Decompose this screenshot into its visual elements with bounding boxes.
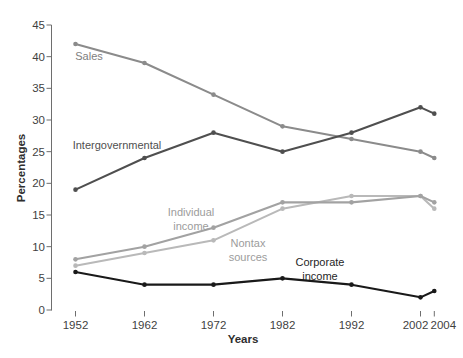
data-point-corporate-income-2004 [432,289,437,294]
y-tick-label-5: 5 [39,272,45,284]
y-tick-label-30: 30 [32,114,45,126]
line-chart-figure: 0510152025303540451952196219721982199220… [0,0,463,358]
data-point-nontax-sources-1962 [142,251,147,256]
data-point-intergovernmental-1962 [142,156,147,161]
series-label-individual-income: Individual [168,206,214,218]
data-point-intergovernmental-1992 [349,130,354,135]
data-point-individual-income-2004 [432,200,437,205]
data-point-intergovernmental-1982 [280,149,285,154]
x-tick-label-2002: 2002 [403,319,429,331]
series-line-corporate-income [76,272,435,297]
series-label-nontax-sources: sources [229,251,268,263]
data-point-corporate-income-1962 [142,282,147,287]
series-label-sales: Sales [75,50,103,62]
series-corporate-income [73,270,436,300]
data-point-corporate-income-1982 [280,276,285,281]
x-tick-label-1972: 1972 [201,319,227,331]
data-point-individual-income-1972 [211,225,216,230]
data-point-intergovernmental-1952 [73,187,78,192]
series-label-corporate-income: income [302,270,337,282]
data-point-individual-income-1952 [73,257,78,262]
x-axis-title: Years [228,333,259,345]
data-point-nontax-sources-1972 [211,238,216,243]
axes: 0510152025303540451952196219721982199220… [32,19,456,331]
data-point-corporate-income-1952 [73,270,78,275]
y-tick-label-10: 10 [32,241,45,253]
data-point-intergovernmental-1972 [211,130,216,135]
data-point-nontax-sources-2004 [432,206,437,211]
y-tick-label-15: 15 [32,209,45,221]
x-tick-label-2004: 2004 [431,319,457,331]
y-tick-label-20: 20 [32,177,45,189]
data-point-individual-income-1982 [280,200,285,205]
y-tick-label-0: 0 [39,304,45,316]
data-point-sales-1952 [73,42,78,47]
data-point-sales-1962 [142,61,147,66]
chart-canvas: 0510152025303540451952196219721982199220… [0,0,463,358]
data-point-individual-income-1962 [142,244,147,249]
data-point-corporate-income-1972 [211,282,216,287]
x-tick-label-1982: 1982 [270,319,296,331]
data-point-nontax-sources-1952 [73,263,78,268]
data-point-intergovernmental-2002 [418,105,423,110]
data-point-sales-2004 [432,156,437,161]
data-point-intergovernmental-2004 [432,111,437,116]
data-point-individual-income-1992 [349,200,354,205]
data-point-individual-income-2002 [418,194,423,199]
series-label-individual-income: income [173,220,208,232]
series-labels: SalesIntergovernmentalIndividualincomeNo… [73,50,345,282]
data-point-nontax-sources-1982 [280,206,285,211]
data-point-nontax-sources-1992 [349,194,354,199]
y-tick-label-35: 35 [32,82,45,94]
y-axis-title: Percentages [15,134,27,202]
data-point-sales-1972 [211,92,216,97]
series-line-individual-income [76,196,435,259]
series-label-corporate-income: Corporate [296,256,345,268]
y-tick-label-40: 40 [32,51,45,63]
y-tick-label-45: 45 [32,19,45,31]
data-point-corporate-income-2002 [418,295,423,300]
data-point-corporate-income-1992 [349,282,354,287]
data-point-sales-2002 [418,149,423,154]
x-tick-label-1962: 1962 [132,319,158,331]
series-label-intergovernmental: Intergovernmental [73,139,162,151]
series-label-nontax-sources: Nontax [231,237,266,249]
x-tick-label-1952: 1952 [63,319,89,331]
data-point-sales-1982 [280,124,285,129]
x-tick-label-1992: 1992 [339,319,365,331]
y-tick-label-25: 25 [32,146,45,158]
data-point-sales-1992 [349,137,354,142]
